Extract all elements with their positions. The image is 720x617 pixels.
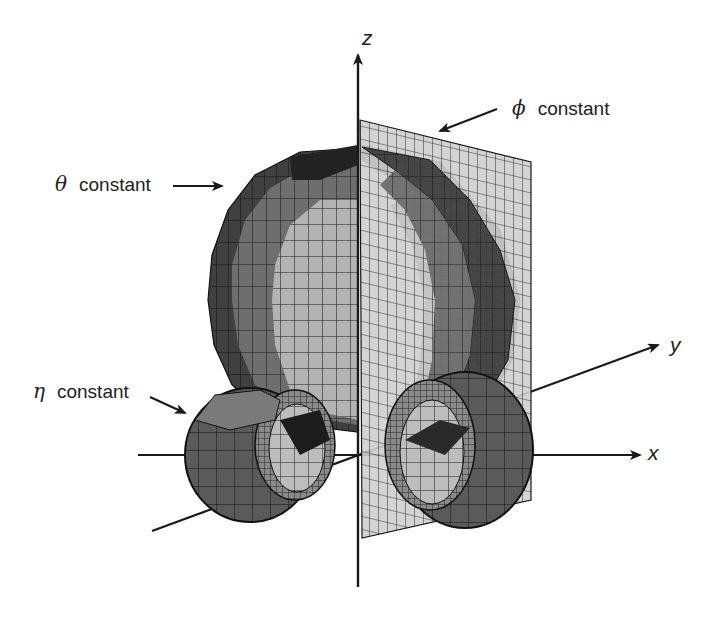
z-axis-label: z <box>362 26 373 50</box>
phi-pointer-arrow <box>440 109 497 131</box>
eta-constant-torus-left <box>185 388 335 522</box>
toroidal-coordinates-figure: z y x θconstant ϕconstant ηconstant <box>0 0 720 617</box>
eta-constant-text: constant <box>57 381 129 402</box>
phi-constant-text: constant <box>538 98 610 119</box>
eta-pointer-arrow <box>150 397 185 413</box>
eta-constant-label: ηconstant <box>33 379 129 403</box>
phi-symbol: ϕ <box>512 96 526 120</box>
y-axis-label: y <box>670 333 681 357</box>
x-axis-label: x <box>648 441 659 465</box>
phi-constant-label: ϕconstant <box>512 96 609 120</box>
theta-constant-label: θconstant <box>55 172 151 196</box>
theta-constant-text: constant <box>79 174 151 195</box>
theta-symbol: θ <box>55 172 67 196</box>
figure-canvas <box>0 0 720 617</box>
eta-symbol: η <box>33 379 45 403</box>
